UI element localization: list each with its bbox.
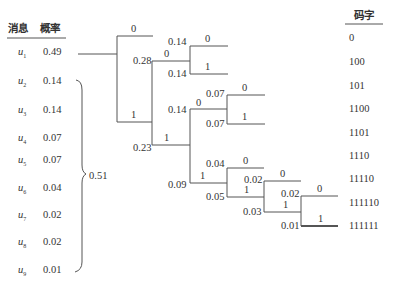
branch-label: 1 bbox=[131, 109, 136, 121]
message-label: u4 bbox=[18, 132, 26, 148]
branch-label: 0 bbox=[164, 48, 169, 60]
message-label: u5 bbox=[18, 154, 26, 170]
node-prob: 0.07 bbox=[206, 88, 224, 100]
branch-label: 1 bbox=[318, 213, 323, 225]
header-codeword: 码字 bbox=[354, 9, 374, 21]
codeword: 111110 bbox=[349, 197, 379, 209]
node-prob: 0.02 bbox=[281, 188, 299, 200]
message-label: u9 bbox=[18, 264, 26, 280]
node-prob: 0.09 bbox=[168, 179, 186, 191]
header-message: 消息 bbox=[8, 22, 28, 34]
message-label: u7 bbox=[18, 209, 26, 225]
message-label: u2 bbox=[18, 75, 26, 91]
codeword: 1101 bbox=[349, 127, 370, 139]
probability-value: 0.49 bbox=[43, 46, 61, 58]
probability-value: 0.01 bbox=[43, 264, 61, 276]
probability-value: 0.04 bbox=[43, 182, 61, 194]
node-prob: 0.01 bbox=[281, 220, 299, 232]
message-label: u6 bbox=[18, 182, 26, 198]
message-label: u1 bbox=[18, 46, 26, 62]
probability-value: 0.07 bbox=[43, 154, 61, 166]
node-prob: 0.02 bbox=[244, 174, 262, 186]
message-label: u3 bbox=[18, 104, 26, 120]
node-prob: 0.14 bbox=[168, 68, 186, 80]
probability-value: 0.02 bbox=[43, 209, 61, 221]
branch-label: 0 bbox=[205, 33, 210, 45]
node-prob: 0.14 bbox=[168, 36, 186, 48]
branch-label: 0 bbox=[243, 155, 248, 167]
codeword: 100 bbox=[349, 56, 365, 68]
node-prob: 0.04 bbox=[206, 158, 224, 170]
node-prob: 0.03 bbox=[243, 206, 261, 218]
codeword: 1110 bbox=[349, 150, 369, 162]
header-probability: 概率 bbox=[40, 22, 60, 34]
codeword: 11110 bbox=[349, 173, 374, 185]
branch-label: 1 bbox=[200, 170, 205, 182]
branch-label: 1 bbox=[283, 199, 288, 211]
node-prob: 0.07 bbox=[206, 118, 224, 130]
probability-value: 0.07 bbox=[43, 132, 61, 144]
branch-label: 0 bbox=[131, 23, 136, 35]
branch-label: 0 bbox=[196, 97, 201, 109]
codeword: 1100 bbox=[349, 103, 370, 115]
node-prob: 0.28 bbox=[133, 55, 151, 67]
message-label: u8 bbox=[18, 236, 26, 252]
probability-value: 0.02 bbox=[43, 236, 61, 248]
brace-sum: 0.51 bbox=[89, 170, 107, 182]
branch-label: 1 bbox=[205, 61, 210, 73]
codeword: 111111 bbox=[349, 220, 379, 232]
probability-value: 0.14 bbox=[43, 104, 61, 116]
node-prob: 0.23 bbox=[133, 142, 151, 154]
codeword: 101 bbox=[349, 80, 365, 92]
branch-label: 0 bbox=[242, 82, 247, 94]
branch-label: 1 bbox=[164, 132, 169, 144]
probability-value: 0.14 bbox=[43, 75, 61, 87]
node-prob: 0.14 bbox=[168, 104, 186, 116]
node-prob: 0.05 bbox=[206, 191, 224, 203]
branch-label: 0 bbox=[280, 168, 285, 180]
branch-label: 1 bbox=[242, 111, 247, 123]
branch-label: 0 bbox=[317, 183, 322, 195]
codeword: 0 bbox=[349, 32, 354, 44]
